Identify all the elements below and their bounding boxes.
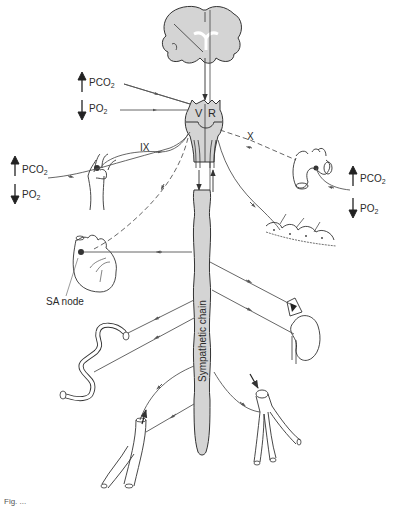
nerve-ix-label: IX [140,143,149,153]
po2-label-carotid: PO2 [22,190,40,201]
sa-node-label: SA node [46,297,84,307]
vagus-nerve-dashed-line [220,130,296,160]
nerve-x-label: X [247,132,254,142]
artery-efferent-line [214,372,260,412]
po2-label-top: PO2 [89,104,107,115]
skin-illustration [266,214,336,246]
pco2-label-carotid: PCO2 [22,165,48,176]
gas-direction-arrows [11,72,357,218]
kidney-efferent-line [212,290,294,334]
brain-illustration [162,6,241,63]
heart-illustration [73,235,116,292]
aortic-arch-illustration [293,148,332,189]
pco2-label-top: PCO2 [89,78,115,89]
adrenal-efferent-line [210,262,290,304]
vein-illustration [101,410,146,488]
aortic-afferent-line [316,168,350,190]
vein-efferent-line-1 [140,366,194,420]
artery-illustration [250,374,301,465]
medulla-v-label: V [195,108,202,119]
diagram-canvas [0,0,396,506]
medulla-illustration [185,100,223,168]
pco2-label-aortic: PCO2 [360,174,386,185]
adrenal-kidney-illustration [287,298,320,364]
po2-label-aortic: PO2 [360,204,378,215]
sa-node-pointer [66,258,78,296]
vein-efferent-line-2 [146,404,194,432]
medulla-r-label: R [208,108,216,119]
carotid-body-illustration [88,154,116,210]
skin-efferent-line [218,140,280,230]
glossopharyngeal-nerve [48,132,190,178]
figure-caption: Fig. ... [4,497,26,506]
intestine-illustration [60,325,129,399]
sympathetic-chain-label: Sympathetic chain [197,262,208,382]
